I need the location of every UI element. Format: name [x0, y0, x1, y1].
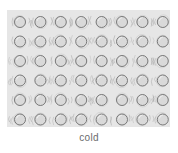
particle-circle [96, 36, 107, 47]
vibration-mark [30, 56, 31, 63]
vibration-mark [71, 35, 72, 44]
particle [75, 95, 93, 107]
vibration-mark [154, 77, 155, 82]
vibration-mark [151, 78, 152, 86]
vibration-mark [10, 59, 11, 65]
particle-circle [137, 36, 148, 47]
vibration-mark [153, 116, 154, 122]
particle-circle [96, 114, 107, 125]
lattice-container [7, 10, 170, 127]
particle [112, 56, 134, 68]
particle-circle [117, 95, 128, 106]
particle-circle [157, 75, 168, 86]
particle [30, 55, 52, 67]
vibration-mark [150, 98, 151, 103]
vibration-mark [29, 38, 30, 47]
particle [29, 113, 47, 125]
particle-circle [55, 75, 66, 86]
vibration-mark [73, 114, 74, 122]
particle [12, 16, 32, 28]
particle-circle [15, 17, 26, 28]
particle [110, 75, 127, 88]
vibration-mark [153, 38, 154, 44]
particle-circle [76, 56, 87, 67]
particle [153, 94, 170, 106]
particle-circle [157, 114, 168, 125]
particle-circle [55, 56, 66, 67]
vibration-mark [48, 96, 49, 102]
particle-circle [137, 17, 148, 28]
particle [137, 95, 154, 108]
particle [133, 113, 154, 125]
particle-circle [35, 114, 46, 125]
vibration-mark [129, 98, 130, 104]
particle-circle [96, 56, 107, 67]
vibration-mark [90, 16, 91, 25]
vibration-mark [12, 96, 13, 104]
particle-circle [96, 75, 107, 86]
particle-circle [137, 95, 148, 106]
particle-circle [76, 17, 87, 28]
vibration-mark [70, 37, 71, 46]
particle-circle [117, 114, 128, 125]
particle [49, 75, 70, 87]
particle [90, 16, 112, 29]
vibration-mark [53, 117, 54, 125]
particle [134, 15, 154, 27]
vibration-mark [9, 116, 10, 122]
vibration-mark [110, 18, 111, 26]
vibration-mark [133, 116, 134, 123]
particle-circle [76, 36, 87, 47]
particle-circle [76, 95, 87, 106]
vibration-mark [109, 18, 110, 26]
vibration-mark [88, 96, 89, 102]
particle-circle [157, 17, 168, 28]
vibration-mark [92, 75, 93, 84]
particle-circle [76, 75, 87, 86]
particle [114, 16, 134, 28]
particle-circle [15, 75, 26, 86]
particle [49, 35, 71, 47]
particle [49, 113, 71, 125]
vibration-mark [29, 117, 30, 124]
vibration-mark [71, 97, 72, 103]
vibration-mark [68, 98, 69, 104]
particle-circle [55, 17, 66, 28]
particle [90, 112, 112, 125]
particle-circle [117, 75, 128, 86]
particle [134, 55, 154, 68]
particle [9, 113, 26, 125]
vibration-mark [133, 18, 134, 26]
particle-circle [15, 36, 26, 47]
particle-circle [137, 56, 148, 67]
particle [157, 35, 170, 47]
vibration-mark [70, 117, 71, 124]
vibration-mark [129, 115, 130, 122]
particle [34, 93, 52, 105]
particle [133, 35, 154, 47]
particle [8, 75, 26, 87]
particle [111, 113, 133, 125]
particle [69, 55, 91, 67]
particle-circle [137, 114, 148, 125]
vibration-mark [29, 18, 30, 24]
particle [90, 35, 112, 47]
particle-circle [35, 56, 46, 67]
particle-circle [96, 95, 107, 106]
vibration-mark [71, 55, 72, 63]
particle [131, 74, 149, 86]
particle-circle [157, 36, 168, 47]
vibration-mark [71, 75, 72, 82]
vibration-mark [131, 116, 132, 121]
particle [110, 35, 132, 48]
vibration-mark [131, 96, 132, 102]
particle-circle [55, 114, 66, 125]
vibration-mark [88, 37, 89, 45]
vibration-mark [93, 78, 94, 85]
particle-circle [35, 95, 46, 106]
vibration-mark [53, 76, 54, 84]
vibration-mark [90, 115, 91, 123]
vibration-mark [11, 117, 12, 125]
vibration-mark [49, 117, 50, 124]
vibration-mark [73, 59, 74, 65]
